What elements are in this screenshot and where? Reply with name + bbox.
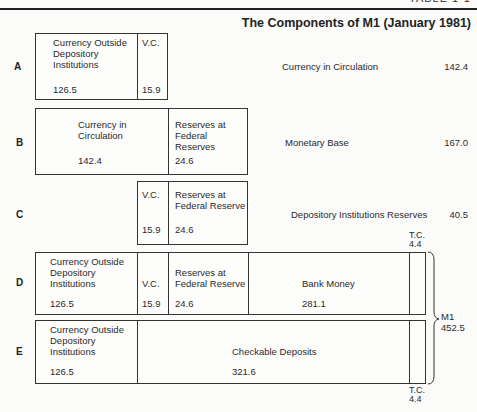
cell-value: 24.6 bbox=[175, 155, 194, 166]
cell-value: 281.1 bbox=[302, 298, 326, 309]
cell-label-line: Federal Reserve bbox=[175, 278, 245, 289]
row-label-e: E bbox=[16, 346, 23, 357]
cell-label-line: Federal Reserves bbox=[175, 130, 247, 152]
m1-value: 452.5 bbox=[441, 322, 465, 333]
row-d-box: Currency Outside Depository Institutions… bbox=[35, 252, 426, 315]
cell-label-line: Currency Outside bbox=[53, 37, 127, 48]
row-d-currency-outside-cell: Currency Outside Depository Institutions… bbox=[36, 253, 138, 314]
cell-value: 15.9 bbox=[142, 84, 161, 95]
cell-label-line: Reserves at bbox=[175, 189, 245, 200]
row-a-currency-outside-cell: Currency Outside Depository Institutions… bbox=[36, 34, 138, 99]
tc-value: 4.4 bbox=[409, 395, 425, 404]
cell-label-line: Currency Outside bbox=[50, 256, 124, 267]
cell-value: 15.9 bbox=[142, 298, 161, 309]
row-b-box: Currency in Circulation 142.4 Reserves a… bbox=[35, 108, 248, 175]
cell-value: 15.9 bbox=[142, 224, 161, 235]
row-c-box: V.C. 15.9 Reserves at Federal Reserve 24… bbox=[137, 181, 248, 245]
row-a-box: Currency Outside Depository Institutions… bbox=[35, 33, 168, 100]
m1-total: M1 452.5 bbox=[441, 311, 465, 333]
row-label-a: A bbox=[14, 61, 21, 72]
row-b-total-value: 167.0 bbox=[444, 137, 468, 148]
cell-label-line: Reserves at bbox=[175, 119, 247, 130]
cell-value: 24.6 bbox=[175, 298, 194, 309]
row-e-box: Currency Outside Depository Institutions… bbox=[35, 320, 426, 384]
table-number-clipped: TABLE 1-1 bbox=[409, 0, 471, 4]
cell-label-line: Currency in bbox=[78, 119, 127, 130]
cell-label: V.C. bbox=[142, 189, 160, 200]
cell-label: Bank Money bbox=[302, 278, 355, 289]
cell-value: 126.5 bbox=[50, 298, 74, 309]
cell-label: Checkable Deposits bbox=[232, 346, 317, 357]
cell-label-line: Circulation bbox=[78, 130, 127, 141]
m1-label: M1 bbox=[441, 311, 465, 322]
row-e-currency-outside-cell: Currency Outside Depository Institutions… bbox=[36, 321, 138, 383]
cell-label: V.C. bbox=[142, 37, 160, 48]
cell-value: 126.5 bbox=[53, 84, 77, 95]
row-d-tc-cell bbox=[410, 253, 425, 314]
row-c-total-label: Depository Institutions Reserves bbox=[291, 209, 427, 220]
cell-label-line: Federal Reserve bbox=[175, 200, 245, 211]
row-d-tc-label: T.C. 4.4 bbox=[409, 231, 425, 249]
cell-label-line: Depository bbox=[50, 335, 124, 346]
row-a-vc-cell: V.C. 15.9 bbox=[138, 34, 168, 99]
cell-label-line: Reserves at bbox=[175, 267, 245, 278]
cell-value: 126.5 bbox=[50, 366, 74, 377]
row-b-currency-circulation-cell: Currency in Circulation 142.4 bbox=[36, 109, 169, 174]
row-label-c: C bbox=[16, 209, 23, 220]
curly-brace-icon bbox=[426, 250, 440, 386]
cell-value: 24.6 bbox=[175, 224, 194, 235]
row-c-vc-cell: V.C. 15.9 bbox=[138, 182, 169, 244]
row-d-bank-money-cell: Bank Money 281.1 bbox=[249, 253, 410, 314]
page-title: The Components of M1 (January 1981) bbox=[242, 16, 471, 30]
row-d-vc-cell: V.C. 15.9 bbox=[138, 253, 169, 314]
row-c-reserves-cell: Reserves at Federal Reserve 24.6 bbox=[169, 182, 247, 244]
row-label-b: B bbox=[16, 137, 23, 148]
tc-value: 4.4 bbox=[409, 240, 425, 249]
cell-label: V.C. bbox=[142, 278, 160, 289]
row-a-total-label: Currency in Circulation bbox=[282, 61, 378, 72]
row-label-d: D bbox=[16, 277, 23, 288]
row-e-tc-cell bbox=[410, 321, 425, 383]
row-e-checkable-deposits-cell: Checkable Deposits 321.6 bbox=[138, 321, 410, 383]
row-c-total-value: 40.5 bbox=[450, 209, 469, 220]
cell-label-line: Institutions bbox=[53, 59, 127, 70]
cell-label-line: Depository bbox=[53, 48, 127, 59]
row-b-reserves-cell: Reserves at Federal Reserves 24.6 bbox=[169, 109, 247, 174]
row-d-reserves-cell: Reserves at Federal Reserve 24.6 bbox=[169, 253, 249, 314]
row-e-tc-label: T.C. 4.4 bbox=[409, 386, 425, 404]
cell-value: 321.6 bbox=[232, 366, 256, 377]
top-rule bbox=[0, 8, 477, 10]
cell-label-line: Depository bbox=[50, 267, 124, 278]
cell-label-line: Currency Outside bbox=[50, 324, 124, 335]
row-b-total-label: Monetary Base bbox=[285, 137, 349, 148]
cell-label-line: Institutions bbox=[50, 278, 124, 289]
cell-value: 142.4 bbox=[78, 155, 102, 166]
cell-label-line: Institutions bbox=[50, 346, 124, 357]
row-a-total-value: 142.4 bbox=[444, 61, 468, 72]
